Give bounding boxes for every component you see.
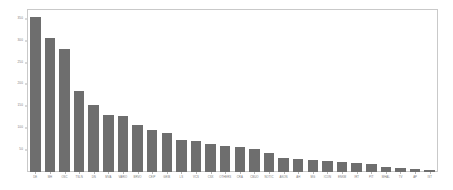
bar[interactable] [30, 17, 41, 172]
x-tick-label: CBUO [250, 176, 258, 179]
bar[interactable] [308, 160, 319, 172]
x-tick-mark [196, 172, 197, 174]
bar-slot [410, 10, 421, 172]
x-tick-label: IRT [354, 176, 359, 179]
x-tick-label: VARIO [119, 176, 128, 179]
x-tick-mark [152, 172, 153, 174]
y-tick-label: 150 [18, 105, 23, 108]
bar[interactable] [205, 144, 216, 172]
y-tick-label: 50 [19, 149, 23, 152]
bars-layer [28, 10, 437, 172]
x-tick-mark [284, 172, 285, 174]
bar-slot [424, 10, 435, 172]
bar-slot [293, 10, 304, 172]
bar[interactable] [366, 164, 377, 172]
bar[interactable] [45, 38, 56, 172]
bar-slot [264, 10, 275, 172]
x-tick-mark [65, 172, 66, 174]
bar-slot [395, 10, 406, 172]
x-tick-mark [211, 172, 212, 174]
bar[interactable] [220, 146, 231, 172]
bar[interactable] [88, 105, 99, 172]
x-tick-label: CSX [208, 176, 214, 179]
x-tick-mark [240, 172, 241, 174]
bar-slot [176, 10, 187, 172]
x-tick-mark [254, 172, 255, 174]
bar-slot [205, 10, 216, 172]
bar-slot [74, 10, 85, 172]
x-tick-mark [35, 172, 36, 174]
bar-slot [88, 10, 99, 172]
bar[interactable] [235, 147, 246, 172]
bar[interactable] [118, 116, 129, 172]
x-tick-mark [357, 172, 358, 174]
bar-slot [132, 10, 143, 172]
x-tick-label: LS [180, 176, 184, 179]
x-tick-label: MVA [105, 176, 111, 179]
bar-slot [103, 10, 114, 172]
bar[interactable] [249, 149, 260, 172]
x-tick-label: MH [48, 176, 52, 179]
bar-slot [278, 10, 289, 172]
bar[interactable] [264, 153, 275, 172]
x-tick-label: CRA [237, 176, 243, 179]
bar[interactable] [74, 91, 85, 172]
x-tick-mark [79, 172, 80, 174]
x-tick-mark [167, 172, 168, 174]
bar[interactable] [162, 133, 173, 172]
bar[interactable] [351, 163, 362, 172]
bar-slot [162, 10, 173, 172]
bar[interactable] [191, 141, 202, 172]
x-tick-mark [371, 172, 372, 174]
x-tick-mark [138, 172, 139, 174]
x-tick-label: AKON [280, 176, 288, 179]
x-tick-label: ICON [324, 176, 331, 179]
x-tick-label: TV [399, 176, 403, 179]
x-tick-mark [415, 172, 416, 174]
bar-slot [337, 10, 348, 172]
x-tick-mark [430, 172, 431, 174]
bar-slot [381, 10, 392, 172]
bar-slot [30, 10, 41, 172]
bar-slot [147, 10, 158, 172]
bar-chart-figure: 50100150200250300350 DEMHOSCTSLNDNMVAVAR… [0, 0, 453, 190]
x-tick-label: BRVO [134, 176, 142, 179]
x-tick-mark [400, 172, 401, 174]
x-tick-label: DN [92, 176, 96, 179]
y-tick-label: 300 [18, 39, 23, 42]
x-tick-label: CEIP [149, 176, 156, 179]
x-tick-label: OSC [61, 176, 67, 179]
x-tick-mark [50, 172, 51, 174]
x-tick-mark [181, 172, 182, 174]
bar[interactable] [59, 49, 70, 172]
bar[interactable] [147, 130, 158, 172]
x-tick-mark [342, 172, 343, 174]
x-tick-label: MHAL [382, 176, 390, 179]
y-axis: 50100150200250300350 [0, 9, 27, 173]
bar-slot [249, 10, 260, 172]
x-tick-label: MG [311, 176, 316, 179]
bar[interactable] [322, 161, 333, 172]
bar-slot [118, 10, 129, 172]
x-tick-mark [298, 172, 299, 174]
bar-slot [308, 10, 319, 172]
bar[interactable] [293, 159, 304, 172]
x-tick-mark [327, 172, 328, 174]
bar-slot [59, 10, 70, 172]
bar-slot [45, 10, 56, 172]
bar[interactable] [103, 115, 114, 172]
x-tick-label: IST [427, 176, 432, 179]
x-tick-mark [94, 172, 95, 174]
x-tick-label: AH [296, 176, 300, 179]
y-tick-label: 200 [18, 83, 23, 86]
x-tick-mark [225, 172, 226, 174]
bar[interactable] [176, 140, 187, 172]
x-tick-label: AP [413, 176, 417, 179]
bar[interactable] [278, 158, 289, 172]
bar[interactable] [337, 162, 348, 173]
x-tick-label: DE [33, 176, 37, 179]
bar[interactable] [132, 125, 143, 172]
y-tick-label: 350 [18, 17, 23, 20]
x-tick-mark [269, 172, 270, 174]
x-tick-label: ENKM [338, 176, 346, 179]
